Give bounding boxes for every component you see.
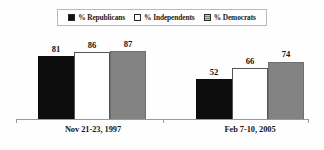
legend-label-democrats: % Democrats [214,14,256,21]
bar-republicans-1997[interactable] [38,56,74,120]
axis-tick-end [308,119,309,123]
bar-slot: 86 [74,30,110,120]
legend-label-independents: % Independents [144,14,195,21]
bar-value-independents-1997: 86 [74,41,110,50]
bar-value-democrats-2005: 74 [268,50,304,59]
legend-item-democrats[interactable]: % Democrats [204,14,256,21]
bar-value-independents-2005: 66 [232,57,268,66]
legend-label-republicans: % Republicans [78,14,125,21]
plot-area: 81 86 87 52 66 [0,30,324,120]
bar-group-nov-1997: 81 86 87 [38,30,148,120]
bar-independents-2005[interactable] [232,68,268,120]
bar-independents-1997[interactable] [74,52,110,120]
legend-swatch-democrats [204,14,211,21]
chart-canvas: % Republicans % Independents % Democrats… [0,0,324,150]
bar-value-republicans-1997: 81 [38,45,74,54]
axis-tick-divider [163,119,164,123]
bar-slot: 66 [232,30,268,120]
category-label-feb-2005: Feb 7-10, 2005 [190,126,310,134]
bar-value-republicans-2005: 52 [196,68,232,77]
legend-item-independents[interactable]: % Independents [134,14,195,21]
bar-democrats-1997[interactable] [110,51,146,120]
bar-republicans-2005[interactable] [196,79,232,120]
bar-slot: 87 [110,30,146,120]
legend-swatch-republicans [68,14,75,21]
legend-item-republicans[interactable]: % Republicans [68,14,125,21]
bar-slot: 52 [196,30,232,120]
bar-group-feb-2005: 52 66 74 [196,30,306,120]
bar-slot: 74 [268,30,304,120]
bar-slot: 81 [38,30,74,120]
bar-value-democrats-1997: 87 [110,40,146,49]
category-label-nov-1997: Nov 21-23, 1997 [33,126,153,134]
legend-swatch-independents [134,14,141,21]
axis-tick-start [16,119,17,123]
bar-democrats-2005[interactable] [268,62,304,120]
chart-legend: % Republicans % Independents % Democrats [57,9,267,26]
